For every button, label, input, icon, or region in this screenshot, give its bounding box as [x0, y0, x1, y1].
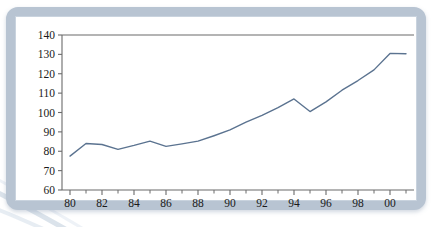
- x-axis-tick-label: 88: [192, 197, 204, 209]
- y-axis-tick-label: 130: [38, 48, 56, 60]
- y-axis-tick-label: 120: [38, 68, 56, 80]
- chart-plot-area: 6070809010011012013014080828486889092949…: [6, 7, 426, 210]
- x-axis-tick-label: 84: [128, 197, 140, 209]
- x-axis-tick-label: 86: [160, 197, 172, 209]
- y-axis-tick-label: 80: [44, 145, 56, 157]
- chart-screenshot: 6070809010011012013014080828486889092949…: [0, 0, 446, 227]
- data-line-series-1: [70, 53, 406, 156]
- x-axis-tick-label: 00: [384, 197, 396, 209]
- x-axis-tick-label: 92: [256, 197, 268, 209]
- x-axis-tick-label: 80: [64, 197, 76, 209]
- y-axis-tick-label: 90: [44, 126, 56, 138]
- x-axis-tick-label: 90: [224, 197, 236, 209]
- y-axis-tick-label: 110: [38, 87, 55, 99]
- line-chart: 6070809010011012013014080828486889092949…: [6, 7, 426, 210]
- y-axis-tick-label: 140: [38, 29, 56, 41]
- y-axis-tick-label: 70: [44, 165, 56, 177]
- y-axis-tick-label: 100: [38, 107, 56, 119]
- x-axis-tick-label: 94: [288, 197, 300, 209]
- y-axis-tick-label: 60: [44, 184, 56, 196]
- x-axis-tick-label: 96: [320, 197, 332, 209]
- x-axis-tick-label: 82: [96, 197, 108, 209]
- x-axis-tick-label: 98: [352, 197, 364, 209]
